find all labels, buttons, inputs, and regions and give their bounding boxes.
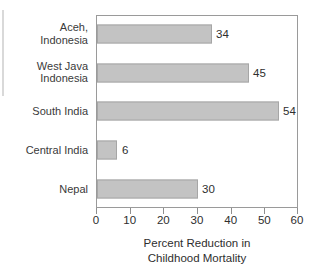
- category-label-line: Indonesia: [0, 73, 88, 86]
- category-label-line: South India: [0, 105, 88, 118]
- bar-value-label: 6: [122, 144, 128, 156]
- x-tick-label: 10: [115, 214, 145, 227]
- category-label: Central India: [0, 144, 88, 157]
- x-axis-title-line: Childhood Mortality: [96, 251, 298, 266]
- chart-row: Central India 6: [0, 131, 318, 170]
- category-label-line: Central India: [0, 144, 88, 157]
- category-label: Nepal: [0, 182, 88, 195]
- bar-value-label: 54: [283, 105, 296, 117]
- category-label: West Java Indonesia: [0, 60, 88, 85]
- x-tick-label: 50: [249, 214, 279, 227]
- x-tick-label: 20: [148, 214, 178, 227]
- chart-row: West Java Indonesia 45: [0, 54, 318, 93]
- x-tick-label: 30: [182, 214, 212, 227]
- x-tick-label: 40: [216, 214, 246, 227]
- bar-chart-figure: Aceh, Indonesia 34 West Java Indonesia 4…: [0, 0, 318, 277]
- category-label-line: Indonesia: [0, 34, 88, 47]
- bar-aceh-indonesia[interactable]: [97, 25, 212, 44]
- category-label: Aceh, Indonesia: [0, 22, 88, 47]
- bar-value-label: 45: [253, 67, 266, 79]
- bar-nepal[interactable]: [97, 179, 198, 198]
- x-axis-title-line: Percent Reduction in: [96, 236, 298, 251]
- x-tick-label: 0: [81, 214, 111, 227]
- bar-west-java-indonesia[interactable]: [97, 63, 249, 82]
- bar-south-india[interactable]: [97, 102, 279, 121]
- bar-value-label: 34: [216, 28, 229, 40]
- chart-row: Nepal 30: [0, 169, 318, 208]
- chart-row: Aceh, Indonesia 34: [0, 15, 318, 54]
- bar-value-label: 30: [202, 183, 215, 195]
- category-label-line: Nepal: [0, 182, 88, 195]
- chart-row: South India 54: [0, 92, 318, 131]
- bar-central-india[interactable]: [97, 141, 117, 160]
- x-tick-label: 60: [282, 214, 312, 227]
- category-label: South India: [0, 105, 88, 118]
- category-label-line: West Java: [0, 60, 88, 73]
- x-axis-title: Percent Reduction in Childhood Mortality: [96, 236, 298, 265]
- category-label-line: Aceh,: [0, 22, 88, 35]
